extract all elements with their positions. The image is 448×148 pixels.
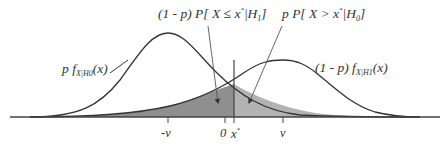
label-curve-h0: p fX|H0(x) bbox=[62, 62, 108, 78]
tick-label-xstar: x* bbox=[231, 127, 240, 141]
shaded-area-right bbox=[234, 84, 420, 117]
tick-label-neg-v: -v bbox=[161, 127, 171, 140]
pointer-left-curve bbox=[110, 60, 128, 73]
label-left-area: (1 - p) P[ X ≤ x*|H1] bbox=[158, 7, 267, 23]
label-right-area: p P[ X > x*|H0] bbox=[282, 7, 365, 23]
tick-label-zero: 0 bbox=[220, 127, 226, 140]
pointer-right-area bbox=[249, 26, 282, 103]
tick-label-v: v bbox=[280, 127, 286, 140]
label-curve-h1: (1 - p) fX|H1(x) bbox=[315, 61, 388, 77]
